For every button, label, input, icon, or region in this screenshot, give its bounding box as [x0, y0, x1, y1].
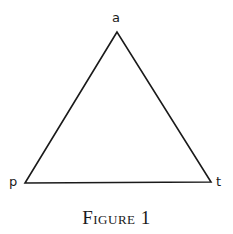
- vertex-label-t: t: [216, 174, 221, 189]
- figure-caption: Figure 1: [0, 207, 233, 229]
- triangle-apt: [25, 32, 211, 183]
- triangle-diagram: a p t: [0, 0, 233, 234]
- vertex-label-a: a: [112, 10, 120, 25]
- vertex-label-p: p: [9, 174, 17, 189]
- figure-1: a p t Figure 1: [0, 0, 233, 234]
